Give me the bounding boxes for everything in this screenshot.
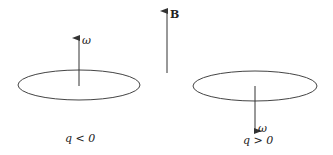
b-field-label: B xyxy=(170,8,179,21)
right-charge-label: q > 0 xyxy=(243,134,273,147)
magnetic-field-group: B xyxy=(167,8,179,73)
diagram-canvas: ω q < 0 B ω q > 0 xyxy=(0,0,333,155)
left-disk-group: ω q < 0 xyxy=(18,34,140,145)
right-disk-group: ω q > 0 xyxy=(193,71,317,147)
left-omega-label: ω xyxy=(82,34,91,47)
left-charge-label: q < 0 xyxy=(65,132,95,145)
